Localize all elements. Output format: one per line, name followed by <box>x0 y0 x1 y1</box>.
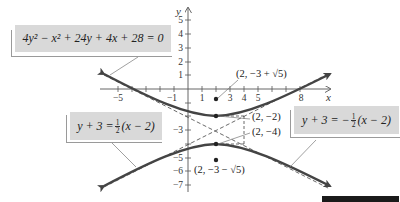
svg-text:1: 1 <box>178 70 183 80</box>
focus-lower <box>214 158 218 162</box>
x-tick-labels: −5 −1 1 3 4 5 8 x <box>113 91 331 103</box>
fraction-one-half: 12 <box>351 113 357 128</box>
equation-box: 4y² − x² + 24y + 4x + 28 = 0 <box>15 25 171 52</box>
svg-text:4: 4 <box>178 29 183 39</box>
svg-text:y: y <box>175 5 181 17</box>
vertex-lower <box>214 142 218 146</box>
svg-text:5: 5 <box>256 93 261 103</box>
vertex-upper-label: (2, −2) <box>252 111 281 122</box>
svg-text:x: x <box>325 91 331 103</box>
svg-text:−3: −3 <box>173 125 183 135</box>
svg-text:3: 3 <box>178 43 183 53</box>
svg-text:3: 3 <box>228 93 233 103</box>
svg-text:2: 2 <box>178 57 183 67</box>
svg-text:4: 4 <box>242 93 247 103</box>
vertex-lower-label: (2, −4) <box>252 126 281 137</box>
svg-text:−5: −5 <box>173 153 183 163</box>
right-asymptote-label: y + 3 = − 12 (x − 2) <box>294 106 399 134</box>
svg-text:−7: −7 <box>173 180 183 190</box>
equation-text: 4y² − x² + 24y + 4x + 28 = 0 <box>23 31 164 46</box>
focus-upper-label: (2, −3 + √5) <box>236 68 287 79</box>
vertex-upper <box>214 114 218 118</box>
svg-text:−6: −6 <box>173 166 183 176</box>
focus-lower-label: (2, −3 − √5) <box>194 164 245 175</box>
svg-text:8: 8 <box>299 93 304 103</box>
left-asymptote-label: y + 3 = 12 (x − 2) <box>70 112 162 140</box>
focus-upper <box>214 97 218 101</box>
svg-text:1: 1 <box>200 93 205 103</box>
svg-text:−1: −1 <box>167 93 177 103</box>
svg-text:−5: −5 <box>113 93 123 103</box>
fraction-one-half: 12 <box>115 119 121 134</box>
page-edge-bar <box>322 196 399 202</box>
